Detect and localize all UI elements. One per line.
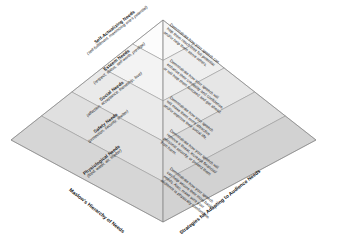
diagram-canvas: Self-Actualizing Needs (self-fulfillment… <box>0 0 339 240</box>
